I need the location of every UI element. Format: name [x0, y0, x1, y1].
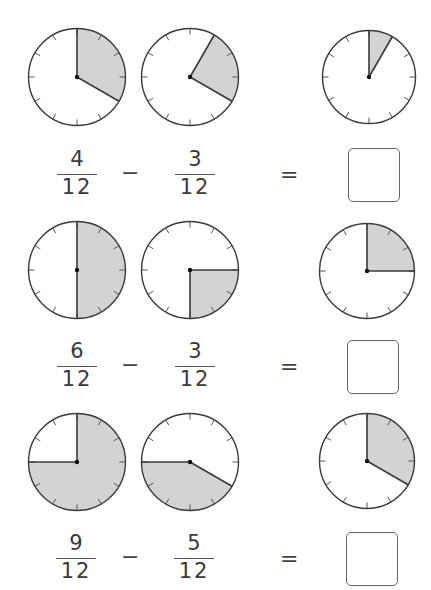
equation-row-3: 9 12 − 5 12 =	[0, 532, 431, 590]
equation-row-1: 4 12 − 3 12 =	[0, 148, 431, 208]
equals-sign: =	[280, 354, 298, 379]
minus-sign: −	[121, 352, 139, 377]
numerator: 3	[175, 148, 215, 172]
fraction-left: 4 12	[57, 148, 97, 200]
denominator: 12	[175, 368, 215, 392]
minus-sign: −	[121, 160, 139, 185]
clock-9-twelfths	[27, 412, 127, 512]
clock-3-twelfths	[140, 220, 240, 320]
denominator: 12	[56, 560, 96, 584]
denominator: 12	[174, 560, 214, 584]
minus-sign: −	[121, 544, 139, 569]
clock-6-twelfths	[27, 220, 127, 320]
numerator: 5	[174, 532, 214, 556]
clock-5-twelfths	[140, 412, 240, 512]
denominator: 12	[57, 176, 97, 200]
fraction-left: 6 12	[57, 340, 97, 392]
clock-answer-4-twelfths	[318, 412, 416, 510]
numerator: 3	[175, 340, 215, 364]
fraction-left: 9 12	[56, 532, 96, 584]
fraction-right: 3 12	[175, 148, 215, 200]
clock-answer-3-twelfths	[318, 222, 416, 320]
denominator: 12	[57, 368, 97, 392]
fraction-right: 3 12	[175, 340, 215, 392]
answer-box-1[interactable]	[348, 148, 400, 202]
equals-sign: =	[280, 162, 298, 187]
fraction-right: 5 12	[174, 532, 214, 584]
answer-box-2[interactable]	[347, 340, 399, 394]
denominator: 12	[175, 176, 215, 200]
clock-3-twelfths	[140, 27, 240, 127]
equation-row-2: 6 12 − 3 12 =	[0, 340, 431, 400]
numerator: 6	[57, 340, 97, 364]
equals-sign: =	[280, 546, 298, 571]
numerator: 4	[57, 148, 97, 172]
clock-answer-1-twelfth	[321, 29, 417, 125]
numerator: 9	[56, 532, 96, 556]
answer-box-3[interactable]	[346, 532, 398, 586]
clock-4-twelfths	[27, 27, 127, 127]
